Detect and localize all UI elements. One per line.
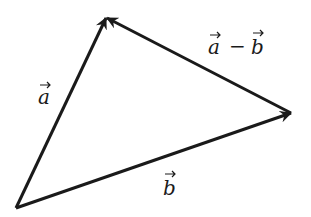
svg-text:−: − <box>229 34 246 58</box>
label-b: b <box>163 171 176 200</box>
svg-text:b: b <box>163 176 176 200</box>
vector-b <box>16 113 291 208</box>
svg-text:b: b <box>251 35 264 59</box>
svg-text:a: a <box>208 35 220 59</box>
vector-a-minus-b <box>107 18 291 113</box>
vector-a <box>16 18 106 208</box>
label-a: a <box>38 82 50 109</box>
svg-text:a: a <box>38 85 50 109</box>
label-a-minus-b: a − b <box>208 30 264 59</box>
vector-diagram: a b a − b <box>0 0 311 217</box>
